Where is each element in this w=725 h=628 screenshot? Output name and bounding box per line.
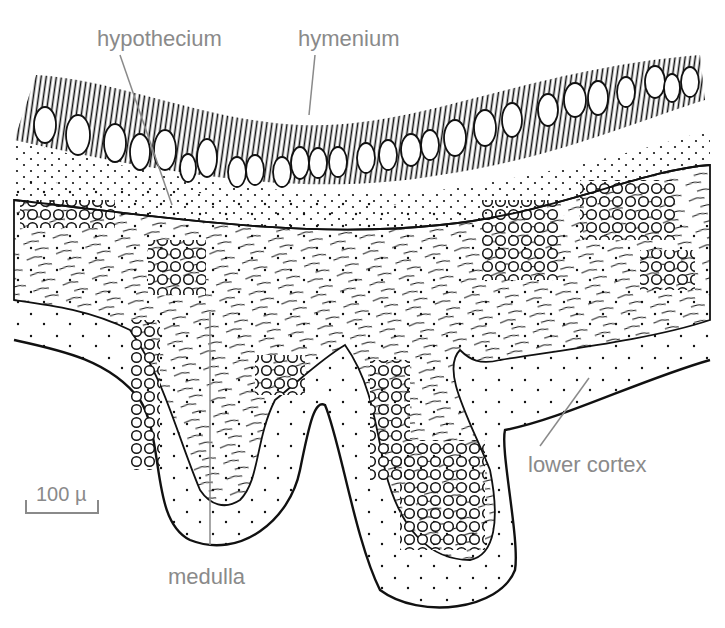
- lichen-cross-section-diagram: [0, 0, 725, 628]
- label-hypothecium: hypothecium: [97, 28, 222, 50]
- scale-bar-label: 100 µ: [36, 484, 86, 504]
- label-hymenium: hymenium: [298, 28, 399, 50]
- hymenium-leader: [309, 55, 315, 115]
- label-medulla: medulla: [168, 566, 245, 588]
- label-lower-cortex: lower cortex: [528, 454, 647, 476]
